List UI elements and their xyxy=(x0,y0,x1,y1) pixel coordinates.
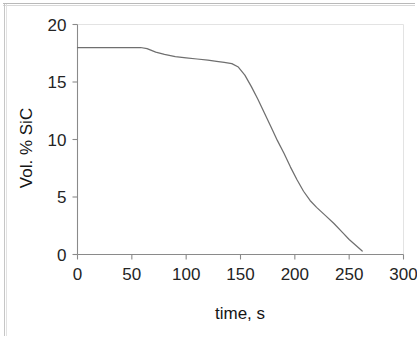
x-tick-label: 0 xyxy=(73,265,82,284)
x-tick-label: 50 xyxy=(122,265,141,284)
x-tick-label: 100 xyxy=(172,265,200,284)
y-axis-title: Vol. % SiC xyxy=(17,108,36,188)
data-series-group xyxy=(78,48,363,252)
x-tick-label: 300 xyxy=(389,265,417,284)
y-tick-label: 0 xyxy=(57,246,66,265)
y-tick-label: 5 xyxy=(57,188,66,207)
x-axis-tick-labels: 050100150200250300 xyxy=(73,265,417,284)
x-axis-tick-marks xyxy=(78,255,404,260)
chart-figure: 05101520 050100150200250300 Vol. % SiC t… xyxy=(0,0,417,338)
plot-area-border xyxy=(78,25,404,255)
line-chart: 05101520 050100150200250300 Vol. % SiC t… xyxy=(0,0,417,338)
series-line-vol-percent-sic xyxy=(78,48,363,252)
y-tick-label: 10 xyxy=(48,131,67,150)
x-tick-label: 200 xyxy=(281,265,309,284)
x-axis-title: time, s xyxy=(215,304,265,323)
y-axis-tick-marks xyxy=(73,25,78,255)
y-tick-label: 20 xyxy=(48,16,67,35)
x-tick-label: 250 xyxy=(335,265,363,284)
y-axis-tick-labels: 05101520 xyxy=(48,16,67,265)
x-tick-label: 150 xyxy=(226,265,254,284)
y-tick-label: 15 xyxy=(48,73,67,92)
